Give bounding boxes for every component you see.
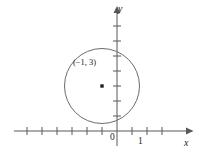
x-tick-label-one: 1 xyxy=(138,137,143,147)
math-figure-coordinate-plane: y x 0 1 (−1, 3) xyxy=(0,0,199,156)
origin-tick-label: 0 xyxy=(110,133,115,143)
y-axis-label: y xyxy=(118,4,122,14)
center-point-marker xyxy=(100,84,103,87)
x-axis-arrowhead xyxy=(186,128,194,135)
center-point-label: (−1, 3) xyxy=(73,58,96,67)
x-axis-label: x xyxy=(184,138,188,148)
plot-canvas xyxy=(0,0,199,156)
